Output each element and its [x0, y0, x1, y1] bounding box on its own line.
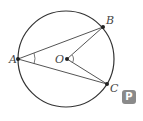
circle-diagram: A B C O [0, 0, 143, 121]
angle-mark-a [34, 53, 35, 64]
label-b: B [105, 14, 114, 27]
segment-ob [67, 27, 103, 59]
segment-oc [67, 59, 107, 84]
point-o [65, 57, 69, 61]
point-b [101, 25, 105, 29]
label-o: O [55, 53, 64, 66]
point-c [105, 82, 109, 86]
p-badge-icon[interactable]: P [122, 90, 136, 104]
label-a: A [8, 53, 17, 66]
label-c: C [110, 82, 119, 95]
